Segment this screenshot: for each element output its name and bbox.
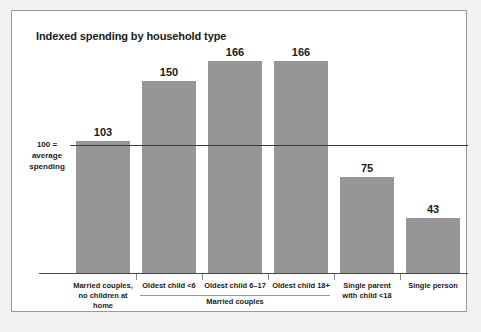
axis-tick-0 bbox=[136, 274, 137, 280]
category-axis bbox=[39, 273, 468, 274]
reference-line-label-line-1: 100 = bbox=[26, 139, 68, 150]
chart-screenshot: Indexed spending by household type 100 =… bbox=[0, 0, 481, 332]
category-label-4-line-1: with child <18 bbox=[334, 291, 400, 301]
reference-line-label-line-2: average bbox=[26, 150, 68, 161]
bar-value-label-1: 150 bbox=[139, 66, 199, 78]
bar-2 bbox=[208, 61, 262, 273]
bar-value-label-4: 75 bbox=[337, 162, 397, 174]
bar-3 bbox=[274, 61, 328, 273]
chart-frame: Indexed spending by household type 100 =… bbox=[11, 10, 467, 312]
category-label-5: Single person bbox=[400, 281, 466, 291]
bar-value-label-2: 166 bbox=[205, 46, 265, 58]
category-label-3: Oldest child 18+ bbox=[268, 281, 334, 291]
category-label-3-line-0: Oldest child 18+ bbox=[268, 281, 334, 291]
bar-value-label-3: 166 bbox=[271, 46, 331, 58]
category-label-4: Single parentwith child <18 bbox=[334, 281, 400, 301]
reference-line-label: 100 = average spending bbox=[26, 139, 68, 172]
group-bracket-line bbox=[140, 295, 330, 296]
category-label-2-line-0: Oldest child 6–17 bbox=[202, 281, 268, 291]
category-label-0-line-0: Married couples, bbox=[70, 281, 136, 291]
category-label-5-line-0: Single person bbox=[400, 281, 466, 291]
bar-1 bbox=[142, 81, 196, 273]
category-label-1-line-0: Oldest child <6 bbox=[136, 281, 202, 291]
axis-tick-2 bbox=[268, 274, 269, 280]
axis-tick-4 bbox=[400, 274, 401, 280]
group-bracket-label: Married couples bbox=[140, 297, 330, 306]
reference-line-100 bbox=[70, 145, 468, 146]
axis-tick-3 bbox=[334, 274, 335, 280]
category-label-0: Married couples,no children at home bbox=[70, 281, 136, 311]
category-label-2: Oldest child 6–17 bbox=[202, 281, 268, 291]
plot-area bbox=[70, 51, 466, 273]
bar-0 bbox=[76, 141, 130, 273]
bar-value-label-0: 103 bbox=[73, 126, 133, 138]
reference-line-label-line-3: spending bbox=[26, 161, 68, 172]
axis-tick-1 bbox=[202, 274, 203, 280]
chart-title: Indexed spending by household type bbox=[36, 30, 226, 42]
bar-4 bbox=[340, 177, 394, 273]
category-label-0-line-1: no children at home bbox=[70, 291, 136, 311]
bar-value-label-5: 43 bbox=[403, 203, 463, 215]
bar-5 bbox=[406, 218, 460, 273]
category-label-4-line-0: Single parent bbox=[334, 281, 400, 291]
category-label-1: Oldest child <6 bbox=[136, 281, 202, 291]
